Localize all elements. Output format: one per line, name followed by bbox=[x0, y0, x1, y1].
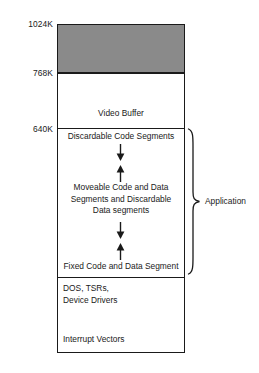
region-label-moveable-line-2: Segments and Discardable bbox=[57, 194, 185, 206]
axis-tick-1024k-label: 1024K bbox=[7, 19, 53, 29]
region-label-dos-line-1: DOS, TSRs, bbox=[63, 283, 183, 295]
region-label-moveable-code: Moveable Code and Data Segments and Disc… bbox=[57, 182, 185, 217]
divider-640k bbox=[57, 128, 185, 129]
divider-768k bbox=[57, 73, 185, 74]
arrow-up-icon bbox=[115, 243, 126, 260]
memory-map-diagram: 1024K 768K 640K Video Buffer Discardable… bbox=[0, 0, 259, 373]
region-label-moveable-line-1: Moveable Code and Data bbox=[57, 182, 185, 194]
application-group-label: Application bbox=[205, 196, 246, 206]
region-label-interrupt-vectors: Interrupt Vectors bbox=[63, 334, 183, 346]
region-label-moveable-line-3: Data segments bbox=[57, 205, 185, 217]
axis-tick-768k-label: 768K bbox=[7, 68, 53, 78]
arrow-down-icon bbox=[115, 222, 126, 239]
region-reserved-fill bbox=[57, 24, 185, 73]
divider-dos-boundary bbox=[57, 277, 185, 278]
region-label-fixed-code: Fixed Code and Data Segment bbox=[57, 261, 185, 273]
region-label-dos-line-2: Device Drivers bbox=[63, 295, 183, 307]
region-label-discardable-code: Discardable Code Segments bbox=[57, 131, 185, 143]
arrow-down-icon bbox=[115, 144, 126, 161]
region-label-dos: DOS, TSRs, Device Drivers bbox=[63, 283, 183, 306]
arrow-up-icon bbox=[115, 165, 126, 182]
region-label-video-buffer: Video Buffer bbox=[57, 108, 185, 120]
application-brace-icon bbox=[187, 128, 202, 275]
axis-tick-640k-label: 640K bbox=[7, 124, 53, 134]
